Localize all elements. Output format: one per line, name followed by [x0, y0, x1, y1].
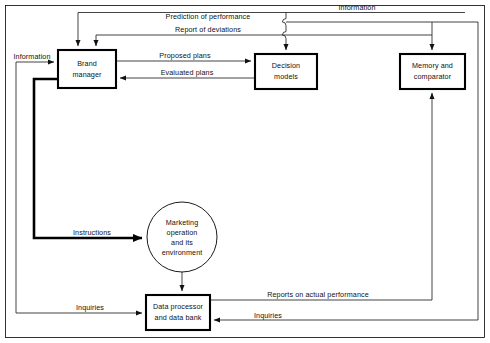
edge-label-information-left: Information	[13, 52, 50, 61]
diagram-canvas: Brand manager Decision models Memory and…	[0, 0, 490, 343]
flow-diagram-svg: Brand manager Decision models Memory and…	[0, 0, 490, 343]
edge-label-evaluated-plans: Evaluated plans	[161, 68, 214, 77]
node-data-processor[interactable]: Data processor and data bank	[146, 295, 210, 330]
brand-manager-label-line2: manager	[72, 70, 102, 79]
marketing-operation-label-line4: environment	[162, 248, 203, 257]
edge-reports-on-actual-performance	[210, 93, 432, 300]
decision-models-label-line1: Decision	[272, 61, 300, 70]
edge-label-reports-on-actual-performance: Reports on actual performance	[267, 290, 369, 299]
edge-report-of-deviations	[96, 35, 432, 46]
node-memory-and-comparator[interactable]: Memory and comparator	[400, 54, 465, 89]
marketing-operation-label-line2: operation	[167, 228, 198, 237]
edge-label-information-top: Information	[338, 3, 375, 12]
data-processor-label-line2: and data bank	[155, 313, 202, 322]
decision-models-label-line2: models	[274, 72, 298, 81]
memory-comparator-label-line1: Memory and	[412, 61, 453, 70]
marketing-operation-label-line1: Marketing	[166, 218, 198, 227]
edge-label-proposed-plans: Proposed plans	[159, 51, 211, 60]
edge-information-to-decision-models	[282, 13, 286, 51]
edge-label-inquiries-right: Inquiries	[254, 311, 282, 320]
node-brand-manager[interactable]: Brand manager	[58, 50, 116, 88]
edge-instructions	[34, 79, 142, 238]
memory-comparator-label-line2: comparator	[414, 72, 452, 81]
edge-label-report-of-deviations: Report of deviations	[175, 25, 241, 34]
marketing-operation-label-line3: and its	[171, 238, 193, 247]
edge-information-top	[78, 13, 465, 47]
node-decision-models[interactable]: Decision models	[255, 54, 317, 89]
data-processor-label-line1: Data processor	[153, 302, 204, 311]
node-marketing-operation[interactable]: Marketing operation and its environment	[147, 202, 217, 272]
edge-label-instructions: Instructions	[73, 228, 111, 237]
edge-label-prediction-of-performance: Prediction of performance	[166, 12, 251, 21]
brand-manager-label-line1: Brand	[77, 59, 97, 68]
edge-label-inquiries-left: Inquiries	[76, 303, 104, 312]
